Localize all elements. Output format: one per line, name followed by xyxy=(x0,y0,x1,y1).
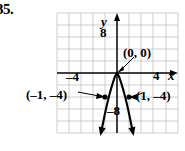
left-point-label: (–1, –4) xyxy=(26,88,67,101)
vertex-label: (0, 0) xyxy=(123,46,151,59)
y-tick-label-neg8: –8 xyxy=(107,104,120,117)
right-point-label: (1, –4) xyxy=(136,89,171,102)
x-tick-label-neg4: –4 xyxy=(66,70,79,83)
y-tick-label-8: 8 xyxy=(100,26,107,39)
x-axis-label: x xyxy=(168,69,175,82)
x-tick-label-4: 4 xyxy=(153,69,160,82)
